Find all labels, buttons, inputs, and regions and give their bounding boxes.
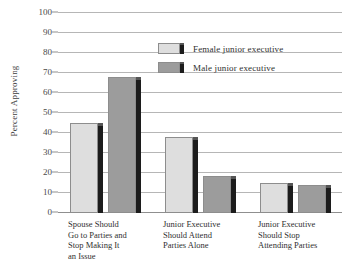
category-line: Spouse Should [68,219,153,230]
ytick-dash-90 [52,32,58,33]
ytick-label-40: 40 [0,127,52,137]
ytick-dash-50 [52,112,58,113]
legend-swatch-female [158,43,184,54]
category-label-group3: Junior Executive Should Stop Attending P… [258,219,350,251]
legend-label-male: Male junior executive [193,63,275,73]
ytick-dash-10 [52,192,58,193]
ytick-label-20: 20 [0,167,52,177]
ytick-dash-80 [52,52,58,53]
legend-swatch-male [158,62,184,73]
category-line: Stop Making It [68,240,153,251]
ytick-dash-100 [52,12,58,13]
bar-chart: 100 90 80 70 60 50 40 30 20 10 0 Percent… [0,0,358,273]
ytick-dash-20 [52,172,58,173]
swatch-face [158,62,180,73]
category-line: an Issue [68,251,153,262]
ytick-dash-0 [52,212,58,213]
category-line: Should Stop [258,230,350,241]
swatch-side-shadow [180,45,184,54]
ytick-dash-70 [52,72,58,73]
ytick-label-80: 80 [0,47,52,57]
ytick-dash-40 [52,132,58,133]
ytick-label-90: 90 [0,27,52,37]
ytick-dash-60 [52,92,58,93]
ytick-dash-30 [52,152,58,153]
legend-item-female: Female junior executive [158,41,330,56]
category-line: Parties Alone [163,240,251,251]
category-line: Attending Parties [258,240,350,251]
category-line: Junior Executive [163,219,251,230]
category-line: Should Attend [163,230,251,241]
swatch-side-shadow [180,64,184,73]
ytick-label-70: 70 [0,67,52,77]
swatch-face [158,43,180,54]
ytick-label-0: 0 [0,207,52,217]
legend-item-male: Male junior executive [158,60,330,75]
category-line: Go to Parties and [68,230,153,241]
ytick-label-50: 50 [0,107,52,117]
ytick-label-10: 10 [0,187,52,197]
category-line: Junior Executive [258,219,350,230]
ytick-label-100: 100 [0,7,52,17]
legend-label-female: Female junior executive [193,44,283,54]
ytick-label-60: 60 [0,87,52,97]
legend: Female junior executive Male junior exec… [158,41,330,79]
category-label-group1: Spouse Should Go to Parties and Stop Mak… [68,219,153,261]
ytick-label-30: 30 [0,147,52,157]
category-label-group2: Junior Executive Should Attend Parties A… [163,219,251,251]
y-axis-title: Percent Approving [9,41,19,161]
